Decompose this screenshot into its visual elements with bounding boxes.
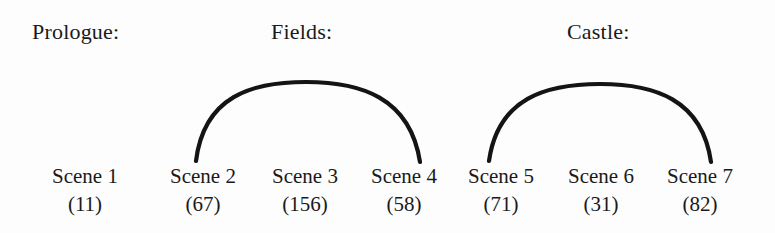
- scene-name-6: Scene 6: [546, 164, 656, 189]
- scene-name-1: Scene 1: [30, 164, 140, 189]
- scene-column-1: Scene 1 (11): [30, 164, 140, 219]
- scene-count-5: (71): [446, 189, 556, 219]
- scene-name-7: Scene 7: [645, 164, 755, 189]
- arc-castle: [489, 84, 711, 162]
- scene-count-6: (31): [546, 189, 656, 219]
- scene-count-1: (11): [30, 189, 140, 219]
- scene-name-3: Scene 3: [250, 164, 360, 189]
- scene-count-2: (67): [148, 189, 258, 219]
- scene-column-4: Scene 4 (58): [349, 164, 459, 219]
- scene-count-3: (156): [250, 189, 360, 219]
- scene-column-5: Scene 5 (71): [446, 164, 556, 219]
- scene-name-2: Scene 2: [148, 164, 258, 189]
- scene-name-5: Scene 5: [446, 164, 556, 189]
- scene-count-7: (82): [645, 189, 755, 219]
- scene-count-4: (58): [349, 189, 459, 219]
- scene-column-7: Scene 7 (82): [645, 164, 755, 219]
- scene-row: Scene 1 (11) Scene 2 (67) Scene 3 (156) …: [0, 164, 775, 228]
- arc-fields: [196, 82, 420, 162]
- scene-column-6: Scene 6 (31): [546, 164, 656, 219]
- scene-name-4: Scene 4: [349, 164, 459, 189]
- scene-column-3: Scene 3 (156): [250, 164, 360, 219]
- figure-canvas: Prologue: Fields: Castle: Scene 1 (11) S…: [0, 0, 775, 233]
- scene-column-2: Scene 2 (67): [148, 164, 258, 219]
